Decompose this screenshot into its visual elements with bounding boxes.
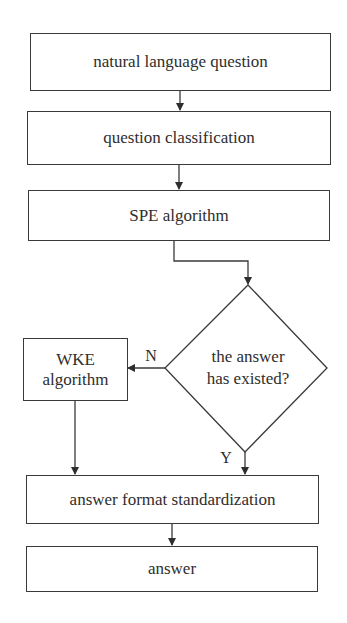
node-label: natural language question xyxy=(93,52,268,72)
arrow-n3-to-decision xyxy=(174,240,248,284)
edge-label-no: N xyxy=(143,347,159,365)
node-answer: answer xyxy=(26,546,318,592)
decision-label-line1: the answer xyxy=(190,346,306,368)
node-natural-language-question: natural language question xyxy=(30,33,331,91)
node-label: answer xyxy=(148,559,196,579)
node-question-classification: question classification xyxy=(27,111,331,165)
node-label: SPE algorithm xyxy=(129,206,229,226)
node-wke-algorithm: WKE algorithm xyxy=(23,338,128,401)
node-answer-format-standardization: answer format standardization xyxy=(26,475,319,524)
connectors-layer xyxy=(0,0,347,623)
node-spe-algorithm: SPE algorithm xyxy=(28,190,330,241)
node-label: answer format standardization xyxy=(70,490,276,510)
decision-label: the answer has existed? xyxy=(190,346,306,390)
decision-label-line2: has existed? xyxy=(190,368,306,390)
node-label-line1: WKE xyxy=(56,350,95,370)
edge-label-yes: Y xyxy=(218,449,234,467)
node-label-line2: algorithm xyxy=(42,370,108,390)
node-label: question classification xyxy=(103,128,255,148)
flowchart-canvas: natural language question question class… xyxy=(0,0,347,623)
